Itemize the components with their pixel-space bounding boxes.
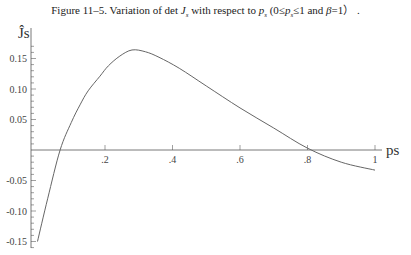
y-axis-label: Ĵs [18, 25, 30, 41]
y-tick-label: -0.05 [6, 175, 27, 186]
x-tick-label: .4 [169, 154, 177, 165]
y-tick-label: 0.10 [10, 84, 28, 95]
y-tick-label: 0.15 [10, 53, 28, 64]
y-tick-label: -0.15 [6, 236, 27, 247]
x-tick-label: .6 [236, 154, 244, 165]
x-tick-label: 1 [373, 154, 378, 165]
x-axis-ticks: .2.4.6.81 [101, 145, 377, 165]
data-line [38, 50, 376, 242]
x-tick-label: .8 [304, 154, 312, 165]
y-tick-label: -0.10 [6, 206, 27, 217]
x-axis-label: ps [386, 142, 400, 158]
y-tick-label: 0.05 [10, 114, 28, 125]
y-axis-ticks: -0.15-0.10-0.050.050.100.15 [6, 46, 36, 247]
x-tick-label: .2 [101, 154, 109, 165]
line-chart: -0.15-0.10-0.050.050.100.15 .2.4.6.81 Ĵs… [0, 0, 411, 255]
